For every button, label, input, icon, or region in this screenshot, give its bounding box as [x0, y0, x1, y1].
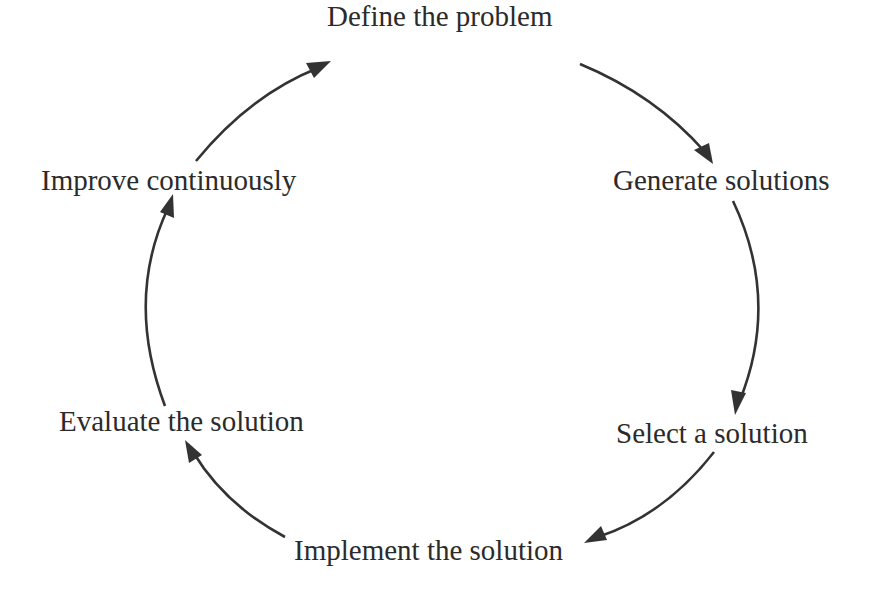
arrow-evaluate-to-improve [146, 194, 174, 406]
arrow-implement-to-evaluate [185, 440, 285, 537]
arrow-improve-to-define [196, 61, 331, 161]
arrow-define-to-generate [580, 64, 713, 164]
step-implement-the-solution: Implement the solution [294, 536, 563, 565]
step-evaluate-the-solution: Evaluate the solution [59, 407, 304, 436]
step-improve-continuously: Improve continuously [41, 166, 296, 195]
problem-solving-cycle-diagram: Define the problem Generate solutions Se… [0, 0, 889, 594]
arrow-select-to-implement [584, 452, 714, 543]
cycle-arrows [0, 0, 889, 594]
step-select-a-solution: Select a solution [616, 419, 808, 448]
step-generate-solutions: Generate solutions [613, 166, 830, 195]
arrow-generate-to-select [731, 201, 758, 415]
step-define-the-problem: Define the problem [327, 2, 552, 31]
